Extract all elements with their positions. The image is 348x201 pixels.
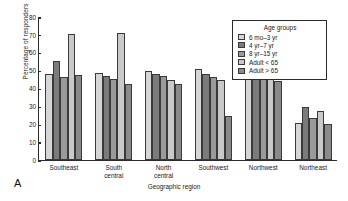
x-axis-title: Geographic region bbox=[0, 183, 348, 190]
legend-swatch-icon bbox=[238, 42, 245, 48]
legend-item: 4 yr–7 yr bbox=[238, 42, 322, 49]
bar bbox=[267, 78, 274, 159]
legend-swatch-icon bbox=[238, 59, 245, 65]
bar bbox=[309, 118, 316, 160]
y-tick-label: 10 bbox=[14, 139, 36, 146]
bar bbox=[175, 84, 182, 160]
bar bbox=[260, 75, 267, 160]
legend-entries: 6 mo–3 yr4 yr–7 yr8 yr–15 yrAdult < 65Ad… bbox=[238, 34, 322, 75]
legend-item: Adult > 65 bbox=[238, 67, 322, 74]
bar bbox=[125, 84, 132, 159]
bar-group bbox=[189, 18, 239, 160]
bar bbox=[195, 69, 202, 159]
bar bbox=[160, 76, 167, 160]
bar bbox=[60, 77, 67, 160]
y-tick-label: 70 bbox=[14, 32, 36, 39]
legend-item-label: 6 mo–3 yr bbox=[249, 34, 277, 41]
y-tick-label: 0 bbox=[14, 157, 36, 164]
y-tick-label: 60 bbox=[14, 49, 36, 56]
bar bbox=[252, 73, 259, 160]
legend-item: Adult < 65 bbox=[238, 59, 322, 66]
bar bbox=[75, 75, 82, 160]
bar-group bbox=[139, 18, 189, 160]
bar-group bbox=[89, 18, 139, 160]
legend-swatch-icon bbox=[238, 34, 245, 40]
legend-item-label: Adult > 65 bbox=[249, 67, 278, 74]
bar bbox=[95, 73, 102, 160]
legend-item: 8 yr–15 yr bbox=[238, 50, 322, 57]
bar bbox=[210, 77, 217, 160]
bar bbox=[152, 74, 159, 160]
bar bbox=[324, 124, 331, 159]
bar bbox=[202, 74, 209, 160]
legend-item-label: Adult < 65 bbox=[249, 59, 278, 66]
panel-letter: A bbox=[14, 177, 21, 189]
legend-item-label: 8 yr–15 yr bbox=[249, 50, 277, 57]
bar bbox=[117, 33, 124, 160]
bar bbox=[167, 80, 174, 160]
bar-group bbox=[39, 18, 89, 160]
bar bbox=[103, 76, 110, 160]
bar bbox=[45, 74, 52, 160]
legend-item: 6 mo–3 yr bbox=[238, 34, 322, 41]
bar bbox=[217, 80, 224, 160]
bar bbox=[295, 123, 302, 159]
y-tick-label: 40 bbox=[14, 85, 36, 92]
y-tick-label: 30 bbox=[14, 103, 36, 110]
bar bbox=[53, 61, 60, 160]
bar bbox=[274, 81, 281, 160]
bar bbox=[110, 79, 117, 160]
legend-title: Age groups bbox=[238, 24, 322, 31]
legend-swatch-icon bbox=[238, 51, 245, 57]
bar bbox=[302, 107, 309, 159]
x-tick-label: Northeast bbox=[283, 164, 343, 172]
bar bbox=[68, 34, 75, 160]
legend-item-label: 4 yr–7 yr bbox=[249, 42, 274, 49]
y-tick-label: 20 bbox=[14, 121, 36, 128]
legend-swatch-icon bbox=[238, 68, 245, 74]
y-tick-mark bbox=[38, 160, 41, 161]
y-tick-label: 50 bbox=[14, 67, 36, 74]
legend: Age groups 6 mo–3 yr4 yr–7 yr8 yr–15 yrA… bbox=[232, 20, 327, 80]
bar bbox=[317, 111, 324, 160]
y-tick-label: 80 bbox=[14, 14, 36, 21]
x-axis-line bbox=[38, 160, 337, 161]
bar bbox=[145, 71, 152, 160]
figure-panel-a: Percentage of responders 010203040506070… bbox=[0, 0, 348, 201]
bar bbox=[225, 116, 232, 159]
